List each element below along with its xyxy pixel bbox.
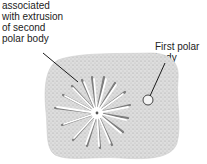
egg-cell-diagram — [0, 0, 207, 164]
centrosome — [96, 112, 99, 115]
first-polar-body — [143, 95, 153, 105]
